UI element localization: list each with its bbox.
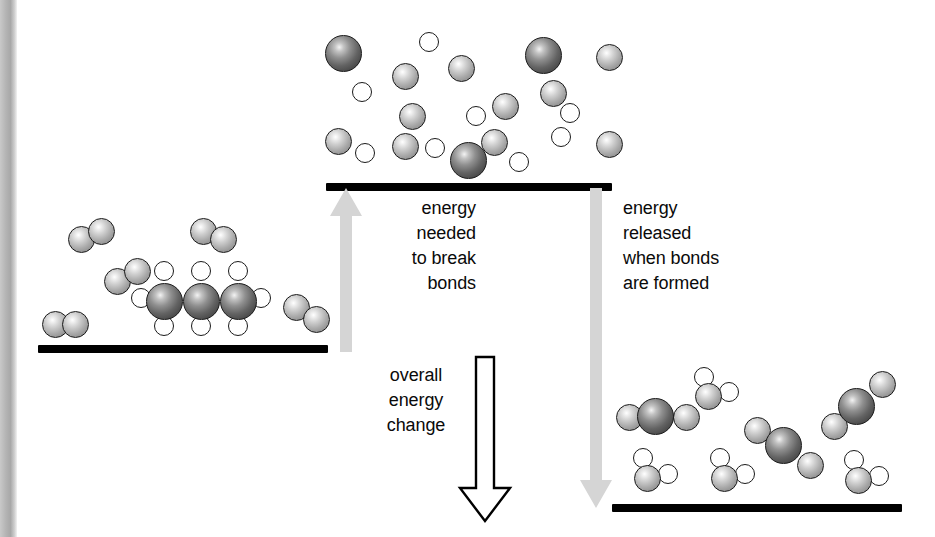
hydrogen-atom	[228, 261, 248, 281]
oxygen-atom	[303, 306, 330, 333]
oxygen-atom	[596, 131, 623, 158]
oxygen-atom	[797, 452, 824, 479]
hydrogen-atom	[425, 138, 445, 158]
oxygen-atom	[210, 226, 237, 253]
oxygen-atom	[634, 465, 661, 492]
carbon-atom	[220, 283, 257, 320]
oxygen-atom	[88, 218, 115, 245]
oxygen-atom	[448, 55, 475, 82]
hydrogen-atom	[352, 82, 372, 102]
oxygen-atom	[392, 133, 419, 160]
hydrogen-atom	[419, 32, 439, 52]
hydrogen-atom	[355, 143, 375, 163]
hydrogen-atom	[735, 464, 755, 484]
energy-diagram-canvas: energy needed to break bonds energy rele…	[0, 0, 935, 537]
hydrogen-atom	[869, 466, 889, 486]
oxygen-atom	[673, 404, 700, 431]
overall-change-label: overall energy change	[376, 363, 456, 438]
oxygen-atom	[62, 311, 89, 338]
hydrogen-atom	[466, 106, 486, 126]
oxygen-atom	[492, 93, 519, 120]
hydrogen-atom	[560, 103, 580, 123]
energy-out-arrow	[578, 188, 614, 508]
oxygen-atom	[124, 258, 151, 285]
hydrogen-atom	[154, 261, 174, 281]
carbon-atom	[146, 283, 183, 320]
carbon-atom	[838, 388, 875, 425]
hydrogen-atom	[191, 261, 211, 281]
carbon-atom	[525, 37, 562, 74]
hydrogen-atom	[658, 464, 678, 484]
oxygen-atom	[695, 383, 722, 410]
hydrogen-atom	[551, 127, 571, 147]
oxygen-atom	[596, 44, 623, 71]
oxygen-atom	[325, 128, 352, 155]
carbon-atom	[450, 142, 487, 179]
break-bonds-label: energy needed to break bonds	[358, 196, 476, 296]
form-bonds-label: energy released when bonds are formed	[623, 196, 773, 296]
carbon-atom	[765, 427, 802, 464]
hydrogen-atom	[509, 152, 529, 172]
carbon-atom	[637, 398, 674, 435]
carbon-atom	[183, 283, 220, 320]
oxygen-atom	[845, 467, 872, 494]
oxygen-atom	[711, 465, 738, 492]
carbon-atom	[325, 35, 362, 72]
oxygen-atom	[399, 103, 426, 130]
oxygen-atom	[540, 80, 567, 107]
hydrogen-atom	[719, 382, 739, 402]
overall-change-arrow	[458, 356, 512, 522]
oxygen-atom	[869, 371, 896, 398]
oxygen-atom	[392, 63, 419, 90]
